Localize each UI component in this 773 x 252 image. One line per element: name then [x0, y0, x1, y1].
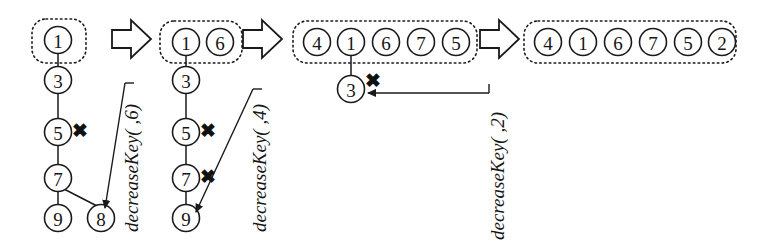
stage-1-node-9: 9: [45, 205, 72, 232]
stage-2-node-1: 1: [173, 29, 200, 56]
stage-1-node-9-label: 9: [53, 209, 63, 230]
stage-2-op-pointer: [196, 89, 253, 212]
stage-4-node-5: 5: [675, 29, 702, 56]
stage-4-node-4: 4: [535, 29, 562, 56]
stage-1-node-1: 1: [45, 27, 72, 54]
stage-2-node-6: 6: [207, 29, 234, 56]
stage-4-node-6-label: 6: [613, 33, 623, 54]
stage-1-node-8-label: 8: [96, 209, 106, 230]
operation-label-2: decreaseKey( ,4): [249, 104, 271, 232]
stage-2-cut-mark-7-icon: ✖: [200, 166, 216, 187]
decrease-key-figure: 1 3 5 7 9 8 ✖: [0, 0, 773, 252]
stage-2-node-1-label: 1: [181, 33, 191, 54]
stage-3-node-5: 5: [443, 29, 470, 56]
stage-2-node-7: 7: [173, 165, 200, 192]
stage-1-node-5-label: 5: [53, 123, 63, 144]
stage-2-node-9: 9: [173, 205, 200, 232]
stage-4-node-4-label: 4: [543, 33, 553, 54]
stage-1: 1 3 5 7 9 8 ✖: [32, 19, 134, 232]
figure-canvas: 1 3 5 7 9 8 ✖: [0, 0, 773, 252]
stage-1-node-7-label: 7: [53, 169, 63, 190]
stage-4-node-5-label: 5: [683, 33, 693, 54]
stage-3-node-6-label: 6: [381, 33, 391, 54]
stage-3-node-4: 4: [304, 29, 331, 56]
stage-1-edge-7-8: [62, 188, 97, 206]
stage-3-node-7: 7: [408, 29, 435, 56]
stage-2-node-3-label: 3: [181, 71, 191, 92]
stage-2-node-6-label: 6: [215, 33, 225, 54]
stage-3: 4 1 6 7 5 3 ✖: [293, 21, 489, 103]
stage-4-node-1-label: 1: [578, 33, 588, 54]
stage-1-node-5: 5: [45, 119, 72, 146]
stage-4-node-7-label: 7: [648, 33, 658, 54]
stage-3-cut-mark-icon: ✖: [365, 70, 381, 91]
stage-2-cut-mark-5-icon: ✖: [200, 120, 216, 141]
stage-4-node-2-label: 2: [717, 33, 727, 54]
operation-label-1: decreaseKey( ,6): [121, 104, 143, 232]
transition-arrow-3: [480, 20, 519, 58]
stage-4-node-1: 1: [570, 29, 597, 56]
transition-arrow-2: [243, 20, 282, 58]
stage-3-node-6: 6: [373, 29, 400, 56]
stage-3-node-1: 1: [338, 29, 365, 56]
stage-2-node-5: 5: [173, 119, 200, 146]
stage-4-node-2: 2: [709, 29, 736, 56]
stage-4-node-7: 7: [640, 29, 667, 56]
stage-2: 1 6 3 5 7 9 ✖ ✖: [160, 21, 262, 232]
stage-4-node-6: 6: [605, 29, 632, 56]
stage-3-node-7-label: 7: [416, 33, 426, 54]
stage-2-node-3: 3: [173, 67, 200, 94]
stage-1-node-7: 7: [45, 165, 72, 192]
transition-arrow-1: [112, 20, 151, 58]
stage-2-node-5-label: 5: [181, 123, 191, 144]
stage-3-node-4-label: 4: [312, 33, 322, 54]
stage-1-node-1-label: 1: [53, 31, 63, 52]
stage-4: 4 1 6 7 5 2: [524, 21, 736, 63]
stage-3-node-3-label: 3: [346, 80, 356, 101]
stage-2-node-9-label: 9: [181, 209, 191, 230]
operation-label-3: decreaseKey( ,2): [487, 112, 509, 240]
stage-3-node-1-label: 1: [346, 33, 356, 54]
stage-1-cut-mark-icon: ✖: [72, 120, 88, 141]
stage-3-node-5-label: 5: [451, 33, 461, 54]
stage-1-node-8: 8: [88, 205, 115, 232]
stage-2-node-7-label: 7: [181, 169, 191, 190]
stage-1-node-3-label: 3: [53, 71, 63, 92]
stage-1-node-3: 3: [45, 67, 72, 94]
stage-3-node-3: 3: [338, 76, 365, 103]
